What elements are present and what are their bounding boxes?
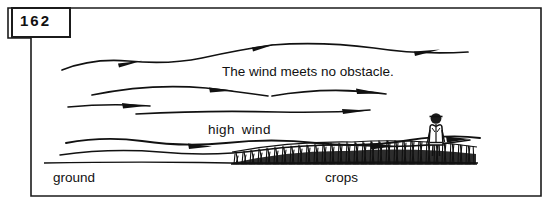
caption-text: The wind meets no obstacle. — [222, 65, 394, 79]
wind-streamlines — [60, 44, 480, 155]
page-number: 162 — [20, 13, 51, 28]
wind-arrow-line-5 — [66, 136, 480, 145]
arrowhead-3 — [122, 103, 146, 109]
arrowhead-2b — [356, 89, 382, 95]
arrowhead-1b — [252, 44, 276, 52]
label-crops: crops — [325, 171, 358, 185]
figure-frame — [8, 8, 541, 196]
wind-arrow-line-2 — [92, 87, 268, 96]
figure-illustration: 162 The wind meets no obstacle. high win… — [0, 0, 550, 204]
wind-arrow-line-4 — [136, 110, 370, 114]
farmer-figure-icon — [428, 113, 445, 156]
wind-arrowheads — [118, 44, 470, 150]
label-high-wind: high wind — [208, 123, 271, 137]
label-ground: ground — [53, 171, 95, 185]
